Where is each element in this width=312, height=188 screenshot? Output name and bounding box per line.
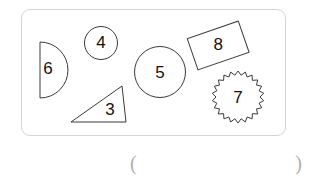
shape-semicircle: 6	[40, 42, 68, 98]
semicircle-numeral: 6	[43, 59, 52, 78]
small-circle-numeral: 4	[96, 33, 105, 52]
answer-blank[interactable]: ( )	[130, 146, 302, 180]
starburst-numeral: 7	[233, 88, 242, 107]
shape-rectangle: 8	[187, 21, 249, 70]
triangle-outline	[71, 86, 126, 122]
shape-small-circle: 4	[85, 27, 118, 60]
shape-large-circle: 5	[135, 47, 186, 98]
triangle-numeral: 3	[105, 100, 114, 119]
close-paren: )	[295, 153, 302, 173]
shape-starburst: 7	[212, 71, 263, 123]
rectangle-numeral: 8	[214, 35, 223, 54]
large-circle-numeral: 5	[155, 63, 164, 82]
open-paren: (	[130, 153, 137, 173]
shape-triangle: 3	[71, 86, 126, 122]
